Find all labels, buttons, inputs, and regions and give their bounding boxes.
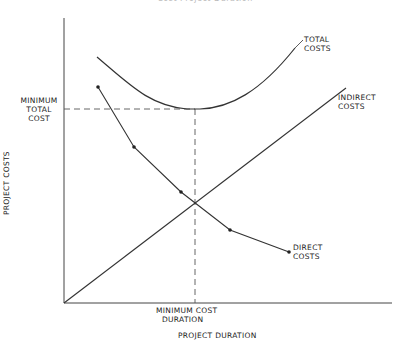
- indirect-costs-line: [64, 88, 346, 303]
- direct-cost-point: [228, 228, 232, 232]
- direct-cost-point: [287, 250, 291, 254]
- total-costs-curve: [97, 48, 295, 109]
- direct-costs-label: DIRECT COSTS: [293, 243, 323, 261]
- total-costs-leader: [295, 40, 303, 48]
- direct-cost-point: [179, 190, 183, 194]
- y-axis-label: PROJECT COSTS: [2, 151, 11, 215]
- indirect-costs-label: INDIRECT COSTS: [338, 93, 376, 111]
- direct-costs-line: [98, 87, 289, 252]
- direct-cost-point: [96, 85, 100, 89]
- total-costs-label: TOTAL COSTS: [304, 35, 331, 53]
- minimum-total-cost-label: MINIMUM TOTAL COST: [14, 96, 64, 123]
- minimum-cost-duration-label: MINIMUM COST DURATION: [156, 306, 217, 324]
- x-axis-label: PROJECT DURATION: [178, 331, 257, 340]
- cost-duration-chart: [0, 0, 405, 354]
- direct-cost-point: [132, 145, 136, 149]
